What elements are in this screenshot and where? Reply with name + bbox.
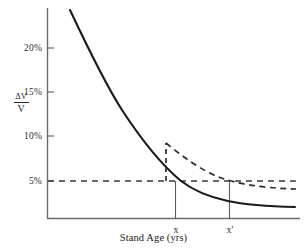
y-axis-title: ΔV V bbox=[6, 92, 36, 114]
plot-canvas bbox=[0, 0, 307, 250]
chart-figure: 20% 15% 10% 5% ΔV V x x' Stand Age (yrs) bbox=[0, 0, 307, 250]
y-tick-label-20: 20% bbox=[8, 43, 42, 53]
y-axis-title-denominator: V bbox=[6, 104, 36, 115]
y-tick-label-10: 10% bbox=[8, 131, 42, 141]
x-axis-title: Stand Age (yrs) bbox=[0, 232, 307, 243]
baseline-growth-curve bbox=[70, 10, 295, 207]
y-tick-label-5: 5% bbox=[8, 176, 42, 186]
post-treatment-curve bbox=[166, 143, 296, 189]
y-axis-title-numerator: ΔV bbox=[6, 92, 36, 101]
